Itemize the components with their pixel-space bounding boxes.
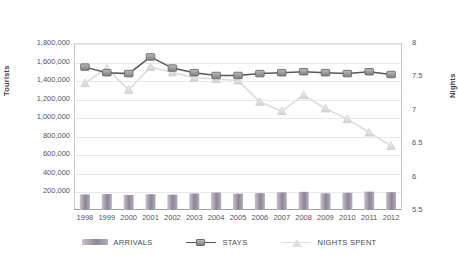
y-axis-right-tick-label: 8 [412, 38, 416, 47]
bar-series-arrivals [80, 192, 396, 210]
legend-swatch-bar-icon [82, 239, 108, 245]
y-axis-left-tick-label: 200,000 [4, 186, 70, 195]
marker-square [190, 69, 199, 76]
marker-square [321, 69, 330, 76]
y-axis-left-tick-label: 1,800,000 [4, 38, 70, 47]
legend-swatch-line-icon [281, 238, 311, 247]
data-layer [74, 43, 402, 210]
y-axis-left-tick-label: 1,600,000 [4, 57, 70, 66]
legend-swatch-line-icon [186, 238, 216, 247]
legend-triangle-marker-icon [292, 239, 302, 247]
bar [320, 193, 330, 210]
y-axis-right-ticks: 5.566.577.58 [406, 0, 446, 255]
marker-triangle [343, 115, 351, 123]
marker-square [256, 70, 265, 77]
marker-square [234, 72, 243, 79]
marker-square [299, 69, 308, 76]
bar [233, 194, 243, 210]
y-axis-left-tick-label: 1,000,000 [4, 112, 70, 121]
y-axis-left-tick-label: 1,200,000 [4, 94, 70, 103]
tourism-chart: Tourists Nights 200,000400,000600,000800… [0, 0, 458, 255]
y-axis-right-tick-label: 6 [412, 172, 416, 181]
y-axis-left-ticks: 200,000400,000600,000800,0001,000,0001,2… [0, 0, 70, 255]
bar [342, 193, 352, 210]
legend-label: NIGHTS SPENT [317, 238, 376, 247]
bar [277, 192, 287, 210]
marker-square [81, 64, 90, 71]
marker-square [212, 72, 221, 79]
marker-triangle [299, 91, 307, 99]
legend-item[interactable]: ARRIVALS [82, 238, 153, 247]
y-axis-right-tick-label: 7.5 [412, 71, 422, 80]
bar [167, 195, 177, 210]
bar [211, 193, 221, 210]
legend-item[interactable]: NIGHTS SPENT [281, 238, 376, 247]
y-axis-left-tick-label: 400,000 [4, 168, 70, 177]
y-axis-left-tick-label: 1,400,000 [4, 75, 70, 84]
marker-triangle [81, 79, 89, 87]
y-axis-left-tick-label: 800,000 [4, 131, 70, 140]
y-axis-left-tick-label: 600,000 [4, 149, 70, 158]
legend-label: STAYS [222, 238, 247, 247]
markers-stays [81, 54, 396, 79]
marker-triangle [387, 142, 395, 150]
y-axis-right-tick-label: 7 [412, 105, 416, 114]
bar [80, 194, 90, 210]
marker-square [124, 70, 133, 77]
bar [299, 192, 309, 210]
chart-legend: ARRIVALSSTAYSNIGHTS SPENT [0, 234, 458, 250]
bar [364, 192, 374, 210]
legend-item[interactable]: STAYS [186, 238, 247, 247]
bar [189, 193, 199, 210]
marker-triangle [365, 128, 373, 136]
y-axis-right-tick-label: 5.5 [412, 205, 422, 214]
marker-square [146, 54, 155, 61]
marker-square [387, 71, 396, 78]
bar [386, 192, 396, 210]
marker-square [277, 69, 286, 76]
bar [102, 194, 112, 210]
x-axis-tick-label: 2012 [378, 213, 404, 222]
marker-square [168, 65, 177, 72]
y-axis-right-tick-label: 6.5 [412, 138, 422, 147]
marker-square [343, 70, 352, 77]
bar [255, 193, 265, 210]
marker-triangle [146, 63, 154, 71]
legend-label: ARRIVALS [114, 238, 153, 247]
marker-triangle [321, 104, 329, 112]
marker-square [365, 69, 374, 76]
marker-square [103, 69, 112, 76]
y-axis-right-title: Nights [448, 73, 457, 98]
legend-square-marker-icon [196, 239, 205, 246]
bar [124, 195, 134, 210]
bar [146, 194, 156, 210]
